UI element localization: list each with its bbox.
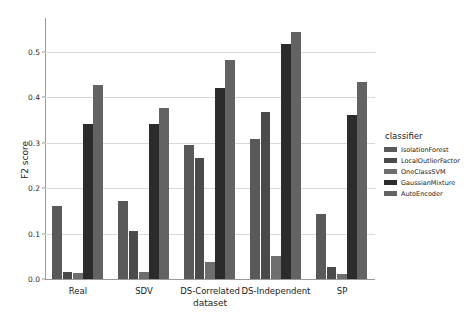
bar — [195, 158, 205, 279]
bar — [261, 112, 271, 279]
bar — [52, 206, 62, 279]
bar — [205, 262, 215, 279]
y-axis-spine — [45, 18, 46, 280]
legend-label: OneClassSVM — [401, 168, 446, 176]
legend-swatch — [384, 180, 397, 185]
bar — [63, 272, 73, 279]
legend-label: LocalOutlierFactor — [401, 157, 460, 165]
legend-label: IsolationForest — [401, 146, 448, 154]
legend-swatch — [384, 169, 397, 174]
bar — [337, 274, 347, 279]
bar-group — [118, 18, 169, 279]
y-tick-mark — [42, 97, 45, 98]
x-axis-spine — [45, 279, 375, 280]
y-tick-label: 0.2 — [28, 184, 40, 193]
bar-group — [184, 18, 235, 279]
bar — [225, 60, 235, 279]
legend-item[interactable]: GaussianMixture — [384, 177, 472, 188]
bar — [149, 124, 159, 279]
bar — [118, 201, 128, 279]
legend-item[interactable]: AutoEncoder — [384, 188, 472, 199]
x-tick-label: SP — [337, 286, 348, 296]
bar — [139, 272, 149, 279]
legend-entries: IsolationForestLocalOutlierFactorOneClas… — [384, 144, 472, 199]
legend-swatch — [384, 147, 397, 152]
legend-swatch — [384, 158, 397, 163]
legend-label: AutoEncoder — [401, 190, 443, 198]
figure: 0.00.10.20.30.40.5 RealSDVDS-CorrelatedD… — [0, 0, 473, 320]
y-tick-label: 0.0 — [28, 275, 40, 284]
legend-item[interactable]: IsolationForest — [384, 144, 472, 155]
plot-inner: 0.00.10.20.30.40.5 RealSDVDS-CorrelatedD… — [45, 18, 375, 280]
bar — [281, 44, 291, 279]
x-tick-label: Real — [69, 286, 87, 296]
legend-item[interactable]: LocalOutlierFactor — [384, 155, 472, 166]
y-tick-mark — [42, 233, 45, 234]
y-axis-label: F2 score — [20, 141, 30, 179]
legend: classifier IsolationForestLocalOutlierFa… — [384, 131, 472, 199]
bar — [129, 231, 139, 279]
bar — [250, 139, 260, 279]
bar — [159, 108, 169, 279]
bar — [93, 85, 103, 279]
bar — [271, 256, 281, 279]
bar — [291, 32, 301, 279]
legend-label: GaussianMixture — [401, 179, 455, 187]
x-tick-label: DS-Correlated — [180, 286, 240, 296]
y-tick-label: 0.1 — [28, 229, 40, 238]
bar — [327, 267, 337, 279]
bar — [215, 88, 225, 279]
y-tick-mark — [42, 52, 45, 53]
plot-area: 0.00.10.20.30.40.5 RealSDVDS-CorrelatedD… — [45, 18, 375, 280]
y-tick-label: 0.4 — [28, 93, 40, 102]
bar-group — [316, 18, 367, 279]
bar — [316, 214, 326, 279]
bar — [357, 82, 367, 279]
x-axis-label: dataset — [45, 298, 375, 308]
x-tick-label: SDV — [135, 286, 153, 296]
bar — [347, 115, 357, 279]
y-tick-label: 0.5 — [28, 48, 40, 57]
bar-group — [250, 18, 301, 279]
x-tick-label: DS-Independent — [242, 286, 311, 296]
y-tick-mark — [42, 142, 45, 143]
legend-title: classifier — [384, 131, 472, 141]
legend-swatch — [384, 191, 397, 196]
y-tick-mark — [42, 279, 45, 280]
bar — [184, 145, 194, 279]
bar-group — [52, 18, 103, 279]
y-tick-mark — [42, 188, 45, 189]
bar — [83, 124, 93, 279]
legend-item[interactable]: OneClassSVM — [384, 166, 472, 177]
bar — [73, 273, 83, 279]
